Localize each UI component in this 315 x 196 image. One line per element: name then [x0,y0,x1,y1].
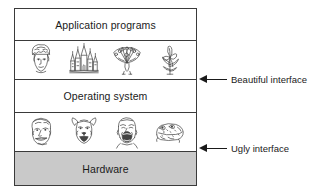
layer-application-programs: Application programs [15,9,196,41]
layer-label-operating-system: Operating system [64,90,148,102]
toad-icon [151,114,189,150]
arrow-left-icon [199,75,227,84]
arrow-left-icon [199,144,227,153]
layer-stack: Application programs [14,8,197,186]
castle-icon [65,42,103,78]
beautiful-icon-row [15,41,196,79]
annotation-label-beautiful-interface: Beautiful interface [231,74,307,85]
ugly-icon-row [15,113,196,151]
layer-hardware: Hardware [15,152,196,185]
crowned-head-icon [22,42,60,78]
layer-label-hardware: Hardware [82,163,128,175]
layered-architecture-diagram: Application programs [0,0,315,196]
layer-label-application-programs: Application programs [55,19,156,31]
layer-operating-system: Operating system [15,80,196,113]
layer-beautiful-interface-icons [15,41,196,80]
flower-icon [151,42,189,78]
peacock-icon [108,42,146,78]
annotation-ugly-interface: Ugly interface [199,142,289,154]
annotation-label-ugly-interface: Ugly interface [231,143,289,154]
layer-ugly-interface-icons [15,113,196,152]
grinning-face-icon [22,114,60,150]
screaming-face-icon [108,114,146,150]
annotation-beautiful-interface: Beautiful interface [199,73,307,85]
dog-face-icon [65,114,103,150]
